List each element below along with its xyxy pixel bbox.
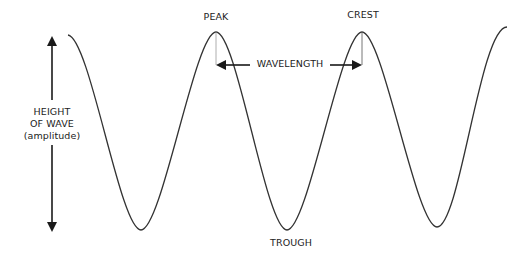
wave-diagram: HEIGHT OF WAVE (amplitude) PEAK CREST TR… <box>0 0 531 257</box>
amplitude-label-line1: HEIGHT <box>24 106 81 118</box>
peak-label: PEAK <box>204 11 229 23</box>
crest-label: CREST <box>347 9 379 21</box>
amplitude-label-line3: (amplitude) <box>24 130 81 142</box>
amplitude-label-line2: OF WAVE <box>24 118 81 130</box>
amplitude-label: HEIGHT OF WAVE (amplitude) <box>24 104 81 144</box>
wavelength-label: WAVELENGTH <box>254 58 327 70</box>
trough-label: TROUGH <box>270 237 312 249</box>
